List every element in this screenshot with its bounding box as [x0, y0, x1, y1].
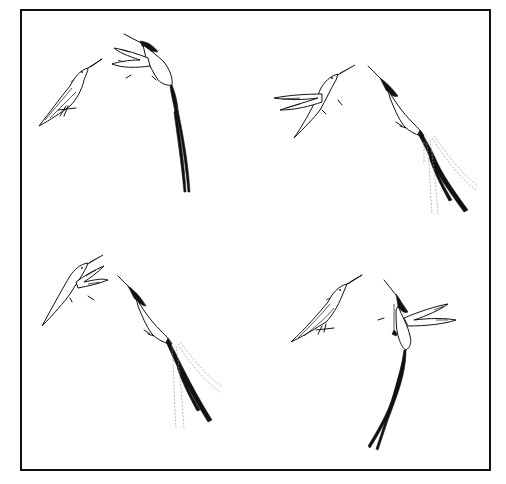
small-bird-perched-icon [291, 275, 362, 342]
panel-top-left [39, 34, 190, 192]
small-bird-hovering-icon [274, 65, 355, 138]
panel-bottom-left [42, 255, 222, 428]
panel-bottom-right [291, 275, 456, 450]
streamertail-bird-diving-icon [368, 66, 478, 214]
small-bird-perched-icon [39, 59, 102, 126]
panel-top-right [274, 65, 478, 214]
streamertail-bird-diving-icon [118, 276, 222, 428]
streamertail-bird-hovering-icon [368, 280, 456, 450]
hummingbird-illustration [0, 0, 506, 484]
streamertail-bird-icon [112, 34, 190, 192]
small-bird-hovering-icon [42, 255, 108, 326]
